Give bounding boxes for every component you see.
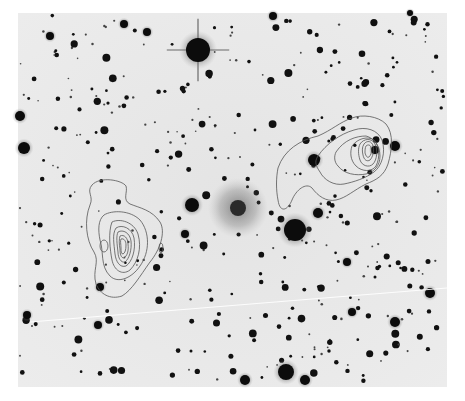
star <box>326 216 328 218</box>
star <box>258 252 264 258</box>
star <box>68 172 70 174</box>
star <box>236 113 241 118</box>
star <box>171 43 174 46</box>
star <box>230 368 237 375</box>
star <box>140 163 145 168</box>
star <box>392 66 395 69</box>
star <box>383 351 388 356</box>
star <box>77 107 81 111</box>
star <box>249 317 251 319</box>
star <box>188 369 190 371</box>
star <box>38 241 40 243</box>
star <box>302 96 304 98</box>
star <box>230 26 233 29</box>
star <box>234 132 236 134</box>
star <box>71 47 73 49</box>
star <box>71 89 73 91</box>
star <box>19 207 21 209</box>
star <box>391 330 399 338</box>
star <box>41 304 43 306</box>
star <box>110 147 115 152</box>
star <box>398 343 400 345</box>
star <box>418 160 422 164</box>
star <box>362 101 367 106</box>
star <box>261 376 264 379</box>
star <box>267 77 274 84</box>
star <box>68 78 70 80</box>
star <box>117 323 120 326</box>
star <box>393 101 396 104</box>
star <box>153 264 160 271</box>
star <box>230 35 232 37</box>
star <box>381 213 383 215</box>
star <box>412 230 417 235</box>
star <box>434 55 438 59</box>
star <box>222 252 225 255</box>
star <box>169 141 172 144</box>
astronomical-plate <box>0 0 465 401</box>
star <box>42 159 45 162</box>
star <box>42 30 44 32</box>
star <box>124 280 126 282</box>
star <box>327 139 330 142</box>
star <box>33 222 36 225</box>
star <box>343 116 345 118</box>
star <box>230 293 233 296</box>
star <box>167 164 169 166</box>
star <box>48 239 51 242</box>
bright-star <box>405 8 415 18</box>
bright-star <box>277 212 312 247</box>
star <box>175 150 182 157</box>
bright-star <box>267 10 280 23</box>
star <box>373 275 376 278</box>
star <box>27 97 30 100</box>
star <box>356 85 360 89</box>
star <box>425 35 427 37</box>
star <box>213 319 220 326</box>
star <box>330 64 333 67</box>
star <box>281 281 284 284</box>
star <box>122 103 127 108</box>
star <box>418 270 420 272</box>
star <box>266 366 268 368</box>
star <box>436 88 439 91</box>
star <box>54 326 56 328</box>
star <box>312 119 316 123</box>
star <box>324 71 327 74</box>
star <box>98 210 100 212</box>
star <box>189 319 194 324</box>
star <box>364 185 369 190</box>
star <box>74 336 82 344</box>
star <box>79 134 81 136</box>
star <box>52 165 54 167</box>
star <box>136 264 138 266</box>
star <box>389 113 393 117</box>
star <box>229 59 231 61</box>
star <box>239 156 241 158</box>
star <box>259 280 264 285</box>
star <box>250 163 254 167</box>
star <box>366 313 371 318</box>
star <box>432 175 434 177</box>
star <box>109 74 117 82</box>
star <box>99 179 103 183</box>
bright-star <box>118 18 131 31</box>
star <box>315 33 319 37</box>
star <box>359 50 366 57</box>
star <box>62 174 66 178</box>
star <box>268 144 270 146</box>
bright-star <box>297 372 313 388</box>
star <box>387 315 389 317</box>
star <box>20 63 22 65</box>
bright-star <box>310 205 326 221</box>
star <box>302 288 306 292</box>
star <box>95 95 97 97</box>
star <box>57 166 59 168</box>
star <box>407 350 409 352</box>
star <box>86 296 89 299</box>
star <box>341 126 346 131</box>
star <box>348 81 353 86</box>
star <box>363 275 366 278</box>
star <box>376 261 378 263</box>
star <box>308 333 310 335</box>
